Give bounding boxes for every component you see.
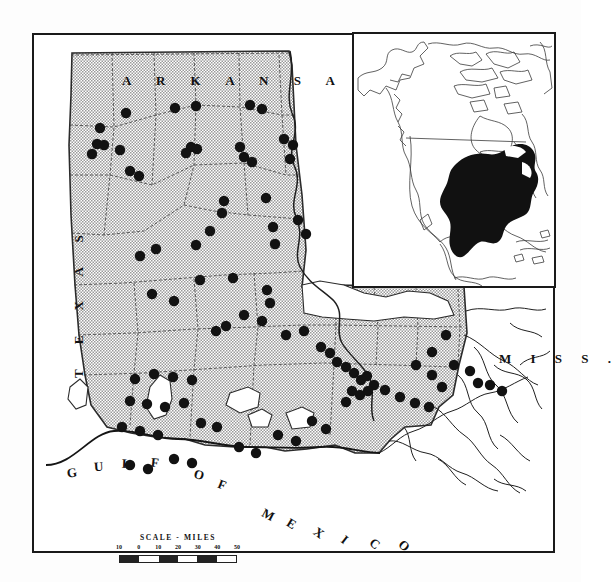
locality-dot bbox=[191, 240, 201, 250]
locality-dot bbox=[395, 392, 405, 402]
locality-dot bbox=[291, 436, 301, 446]
locality-dot bbox=[262, 285, 272, 295]
inset-range-shading bbox=[440, 144, 538, 257]
locality-dot bbox=[169, 296, 179, 306]
locality-dot bbox=[99, 140, 109, 150]
locality-dot bbox=[219, 196, 229, 206]
locality-dot bbox=[427, 347, 437, 357]
locality-dot bbox=[325, 348, 335, 358]
locality-dot bbox=[153, 430, 163, 440]
locality-dot bbox=[181, 148, 191, 158]
locality-dot bbox=[121, 108, 131, 118]
locality-dot bbox=[341, 397, 351, 407]
locality-dot bbox=[363, 386, 373, 396]
scale-ticks: 1001020304050 bbox=[119, 544, 237, 554]
locality-dot bbox=[362, 371, 372, 381]
locality-dot bbox=[410, 398, 420, 408]
locality-dot bbox=[217, 208, 227, 218]
locality-dot bbox=[281, 330, 291, 340]
locality-dot bbox=[134, 171, 144, 181]
locality-dot bbox=[142, 399, 152, 409]
locality-dot bbox=[135, 426, 145, 436]
locality-dot bbox=[228, 273, 238, 283]
scale-tick-label: 0 bbox=[137, 544, 140, 550]
locality-dot bbox=[441, 330, 451, 340]
locality-dot bbox=[411, 360, 421, 370]
locality-dot bbox=[437, 382, 447, 392]
gulf-label-char: F bbox=[150, 455, 160, 472]
locality-dot bbox=[168, 372, 178, 382]
locality-dot bbox=[234, 442, 244, 452]
locality-dot bbox=[288, 140, 298, 150]
locality-dot bbox=[125, 396, 135, 406]
locality-dot bbox=[130, 374, 140, 384]
locality-dot bbox=[221, 321, 231, 331]
inset-map-svg bbox=[354, 34, 554, 286]
locality-dot bbox=[465, 366, 475, 376]
gulf-label-char: L bbox=[122, 456, 131, 472]
locality-dot bbox=[332, 357, 342, 367]
locality-dot bbox=[293, 215, 303, 225]
locality-dot bbox=[191, 101, 201, 111]
locality-dot bbox=[268, 222, 278, 232]
locality-dot bbox=[299, 326, 309, 336]
locality-dot bbox=[169, 454, 179, 464]
locality-dot bbox=[149, 369, 159, 379]
scale-tick-label: 10 bbox=[155, 544, 161, 550]
scale-tick-label: 10 bbox=[116, 544, 122, 550]
locality-dot bbox=[301, 229, 311, 239]
scale-title: SCALE - MILES bbox=[119, 533, 237, 542]
locality-dot bbox=[196, 418, 206, 428]
locality-dot bbox=[135, 251, 145, 261]
gulf-label-char: U bbox=[93, 459, 103, 476]
locality-dot bbox=[285, 154, 295, 164]
locality-dot bbox=[257, 316, 267, 326]
locality-dot bbox=[115, 145, 125, 155]
label-texas: T E X A S bbox=[71, 224, 87, 378]
locality-dot bbox=[95, 123, 105, 133]
locality-dot bbox=[321, 424, 331, 434]
locality-dot bbox=[473, 378, 483, 388]
locality-dot bbox=[212, 422, 222, 432]
scale-tick-label: 50 bbox=[234, 544, 240, 550]
locality-dot bbox=[179, 398, 189, 408]
north-america-inset bbox=[352, 32, 556, 288]
locality-dot bbox=[251, 448, 261, 458]
locality-dot bbox=[245, 100, 255, 110]
locality-dot bbox=[195, 275, 205, 285]
locality-dot bbox=[449, 360, 459, 370]
locality-dot bbox=[211, 326, 221, 336]
locality-dot bbox=[87, 149, 97, 159]
scale-bar-graphic bbox=[119, 555, 237, 563]
label-arkansas: A R K A N S A S bbox=[122, 73, 378, 89]
locality-dot bbox=[247, 157, 257, 167]
locality-dot bbox=[192, 144, 202, 154]
locality-dot bbox=[424, 402, 434, 412]
locality-dot bbox=[151, 244, 161, 254]
locality-dot bbox=[270, 239, 280, 249]
locality-dot bbox=[125, 166, 135, 176]
locality-dot bbox=[257, 104, 267, 114]
locality-dot bbox=[273, 430, 283, 440]
locality-dot bbox=[279, 134, 289, 144]
scale-tick-label: 20 bbox=[175, 544, 181, 550]
locality-dot bbox=[170, 103, 180, 113]
gulf-label-char: G bbox=[66, 464, 78, 481]
locality-dot bbox=[117, 422, 127, 432]
locality-dot bbox=[427, 370, 437, 380]
locality-dot bbox=[205, 226, 215, 236]
locality-dot bbox=[380, 385, 390, 395]
locality-dot bbox=[187, 375, 197, 385]
locality-dot bbox=[497, 386, 507, 396]
locality-dot bbox=[147, 289, 157, 299]
locality-dot bbox=[265, 298, 275, 308]
locality-dot bbox=[160, 402, 170, 412]
locality-dot bbox=[261, 193, 271, 203]
scale-bar: SCALE - MILES 1001020304050 bbox=[119, 533, 237, 563]
locality-dot bbox=[307, 416, 317, 426]
locality-dot bbox=[235, 142, 245, 152]
locality-dot bbox=[485, 380, 495, 390]
locality-dot bbox=[316, 342, 326, 352]
label-mississippi: M I S S . bbox=[499, 351, 615, 367]
